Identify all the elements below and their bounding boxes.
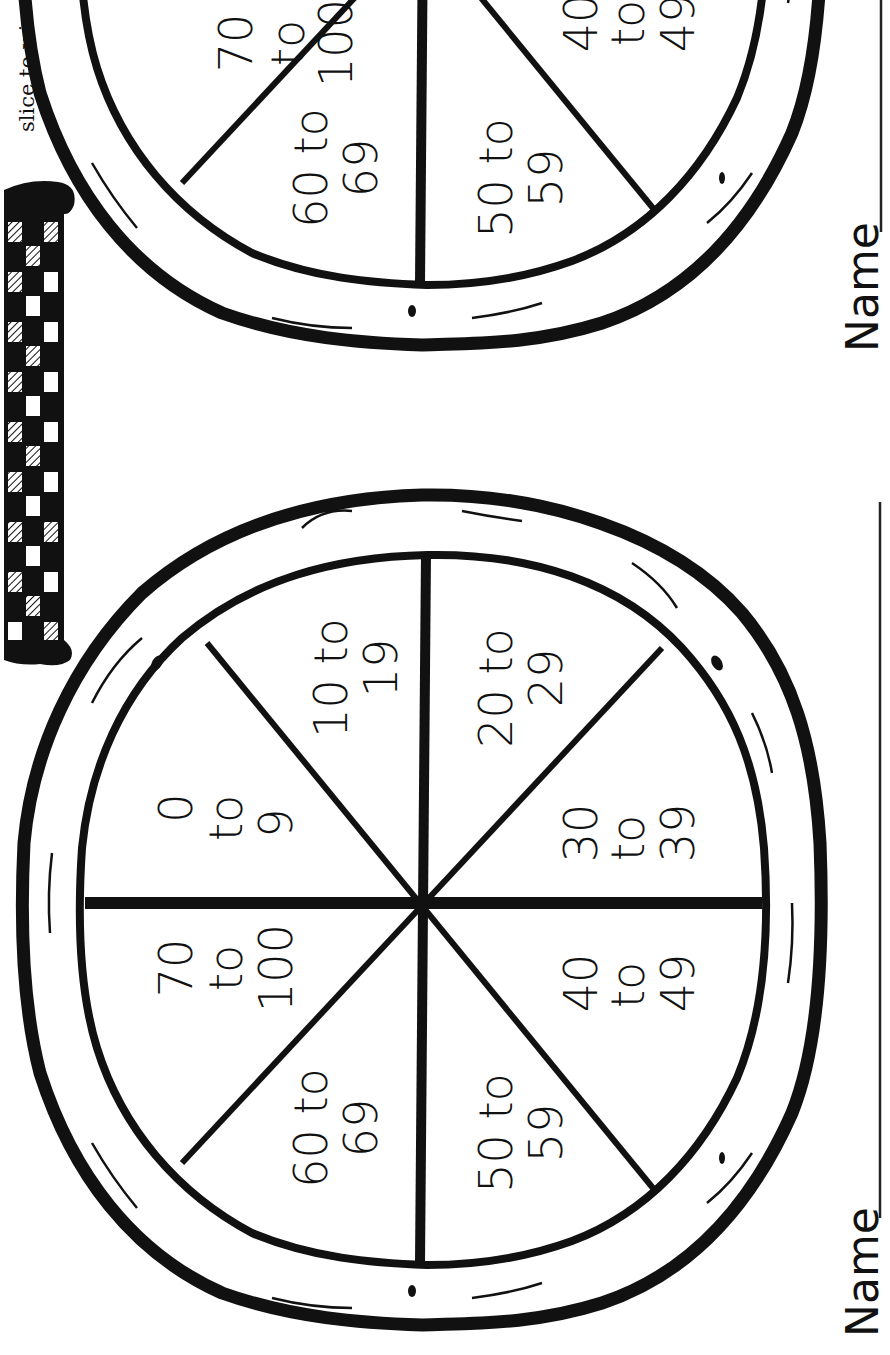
svg-text:to: to	[601, 0, 655, 46]
svg-text:to: to	[261, 20, 315, 66]
svg-text:100: 100	[249, 924, 303, 1012]
svg-text:69: 69	[334, 139, 388, 198]
svg-text:to: to	[199, 795, 253, 841]
spinner-top-pizza: 70 to 100 60 to 69 50 to 59 40 to 49	[22, 0, 821, 345]
svg-text:69: 69	[334, 1099, 388, 1158]
svg-text:to: to	[601, 962, 655, 1008]
svg-text:50 to: 50 to	[469, 118, 523, 237]
svg-text:100: 100	[309, 0, 363, 87]
svg-text:70: 70	[209, 14, 263, 73]
worksheet-page: slice to win.	[0, 0, 890, 1355]
svg-text:59: 59	[519, 1104, 573, 1163]
svg-text:60 to: 60 to	[284, 1068, 338, 1187]
svg-text:20 to: 20 to	[469, 628, 523, 747]
svg-text:59: 59	[519, 149, 573, 208]
svg-text:60 to: 60 to	[284, 108, 338, 227]
svg-text:40: 40	[554, 0, 608, 52]
name-field-top[interactable]: Name	[837, 0, 888, 352]
svg-text:50 to: 50 to	[469, 1073, 523, 1192]
svg-text:70: 70	[149, 939, 203, 998]
svg-text:49: 49	[651, 0, 705, 52]
name-field-bottom[interactable]: Name	[837, 502, 888, 1337]
svg-text:10 to: 10 to	[304, 618, 358, 737]
name-label: Name	[837, 222, 888, 352]
slice-40-49: 40 to 49	[554, 0, 705, 52]
spinner-bottom-pizza: 0 to 9 10 to 19 20 to 29 30 to 39 40 to …	[22, 495, 821, 1325]
name-label: Name	[837, 1207, 888, 1337]
svg-text:39: 39	[651, 804, 705, 863]
slice-40-49: 40 to 49	[554, 954, 705, 1013]
svg-text:to: to	[601, 815, 655, 861]
svg-text:0: 0	[149, 793, 203, 822]
svg-text:to: to	[199, 945, 253, 991]
svg-text:49: 49	[651, 954, 705, 1013]
svg-text:29: 29	[519, 649, 573, 708]
svg-text:9: 9	[249, 808, 303, 837]
svg-text:19: 19	[354, 639, 408, 698]
svg-text:30: 30	[554, 804, 608, 863]
svg-text:40: 40	[554, 954, 608, 1013]
checkered-tablecloth-icon	[4, 181, 75, 665]
